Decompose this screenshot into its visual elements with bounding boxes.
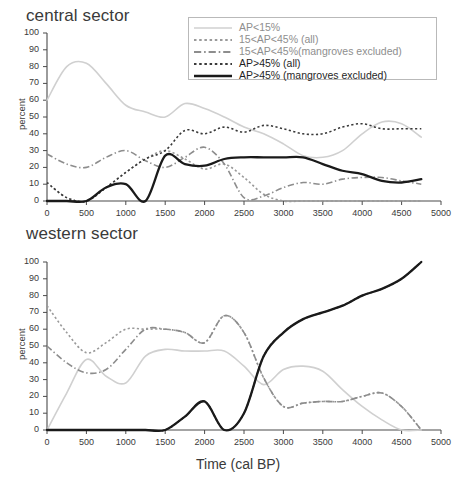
x-tick-label: 1500 [145,208,185,218]
y-tick-label: 60 [17,94,39,104]
y-tick-label: 60 [17,323,39,333]
x-tick-label: 0 [27,208,67,218]
x-tick-label: 500 [66,208,106,218]
panel-title-western: western sector [26,224,138,244]
x-tick-label: 3000 [263,208,303,218]
y-tick-label: 10 [17,178,39,188]
x-tick-label: 4500 [382,437,422,447]
legend-line-sample-icon [193,58,233,69]
x-tick-label: 1500 [145,437,185,447]
y-tick-label: 40 [17,128,39,138]
x-tick-label: 3500 [303,208,343,218]
y-tick-label: 80 [17,290,39,300]
series-line-1-0 [47,349,421,431]
legend-item-label: AP>45% (mangroves excluded) [239,70,387,81]
y-tick-label: 100 [17,256,39,266]
x-tick-label: 4500 [382,208,422,218]
series-line-1-4 [47,262,421,431]
y-tick-label: 20 [17,161,39,171]
x-tick-label: 2000 [185,437,225,447]
legend-line-sample-icon [193,34,233,45]
legend-item-3: AP>45% (all) [193,57,301,69]
series-line-1-3 [47,262,421,431]
legend-item-label: AP<15% [239,22,280,33]
x-tick-label: 3500 [303,437,343,447]
y-tick-label: 90 [17,273,39,283]
y-tick-label: 20 [17,390,39,400]
y-tick-label: 40 [17,357,39,367]
legend-item-2: 15<AP<45%(mangroves excluded) [193,45,402,57]
x-tick-label: 500 [66,437,106,447]
legend-line-sample-icon [193,46,233,57]
y-tick-label: 10 [17,407,39,417]
legend-item-1: 15<AP<45% (all) [193,33,318,45]
legend-item-label: AP>45% (all) [239,58,301,69]
figure-container: central sector western sector percent pe… [0,0,469,479]
y-tick-label: 70 [17,306,39,316]
y-tick-label: 50 [17,340,39,350]
y-tick-label: 30 [17,374,39,384]
series-line-0-2 [47,147,421,200]
y-tick-label: 0 [17,195,39,205]
series-line-1-1 [47,306,421,430]
y-tick-label: 90 [17,44,39,54]
legend-line-sample-icon [193,70,233,81]
x-axis-label: Time (cal BP) [196,456,280,472]
y-tick-label: 30 [17,145,39,155]
legend-line-sample-icon [193,22,233,33]
panel-title-central: central sector [26,6,129,26]
x-tick-label: 2500 [224,437,264,447]
legend-item-4: AP>45% (mangroves excluded) [193,69,387,81]
y-tick-label: 70 [17,77,39,87]
x-tick-label: 1000 [106,437,146,447]
x-tick-label: 3000 [263,437,303,447]
y-tick-label: 100 [17,27,39,37]
x-tick-label: 4000 [342,437,382,447]
y-tick-label: 50 [17,111,39,121]
y-tick-label: 0 [17,424,39,434]
y-tick-label: 80 [17,61,39,71]
x-tick-label: 4000 [342,208,382,218]
legend-box: AP<15%15<AP<45% (all)15<AP<45%(mangroves… [188,17,437,80]
x-tick-label: 2000 [185,208,225,218]
x-tick-label: 2500 [224,208,264,218]
x-tick-label: 5000 [421,208,461,218]
legend-item-label: 15<AP<45% (all) [239,34,318,45]
legend-item-0: AP<15% [193,21,280,33]
x-tick-label: 0 [27,437,67,447]
x-tick-label: 1000 [106,208,146,218]
legend-item-label: 15<AP<45%(mangroves excluded) [239,46,402,57]
x-tick-label: 5000 [421,437,461,447]
